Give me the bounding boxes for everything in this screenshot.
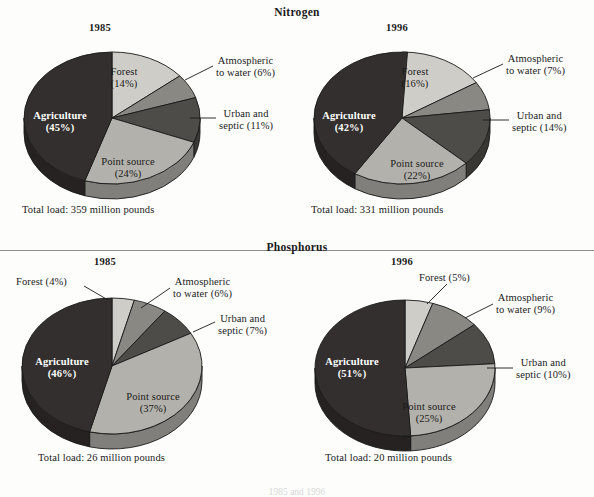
pie-chart-phosphorus-1985 [0, 256, 297, 471]
year-label-nitrogen-1996: 1996 [297, 22, 497, 33]
section-title-nitrogen: Nitrogen [0, 6, 594, 18]
pie-chart-phosphorus-1996 [297, 256, 594, 471]
chart-panel-nitrogen-1996: 1996 Total load: 331 million pounds Fore… [297, 18, 594, 240]
total-load-nitrogen-1985: Total load: 359 million pounds [22, 204, 154, 215]
total-load-nitrogen-1996: Total load: 331 million pounds [311, 204, 443, 215]
year-label-phosphorus-1996: 1996 [297, 256, 507, 267]
chart-panel-phosphorus-1996: 1996 Total load: 20 million pounds Fores… [297, 256, 594, 493]
section-title-phosphorus: Phosphorus [0, 241, 594, 253]
chart-panel-nitrogen-1985: 1985 Total load: 359 million pounds Fore… [0, 18, 297, 240]
chart-panel-phosphorus-1985: 1985 Total load: 26 million pounds Fores… [0, 256, 297, 493]
year-label-nitrogen-1985: 1985 [0, 22, 200, 33]
figure-bottom-caption: 1985 and 1996 [0, 487, 594, 497]
pie-chart-nitrogen-1985 [0, 18, 297, 228]
total-load-phosphorus-1996: Total load: 20 million pounds [325, 452, 452, 463]
total-load-phosphorus-1985: Total load: 26 million pounds [38, 452, 165, 463]
year-label-phosphorus-1985: 1985 [0, 256, 210, 267]
pie-chart-nitrogen-1996 [297, 18, 594, 228]
